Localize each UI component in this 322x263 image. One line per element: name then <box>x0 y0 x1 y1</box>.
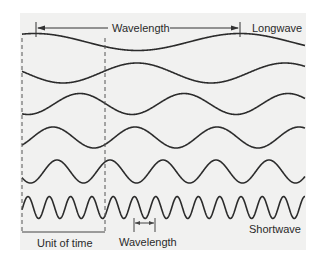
wave-row-5 <box>22 160 305 183</box>
bottom-wavelength-arrow <box>134 218 155 232</box>
wave-row-4 <box>22 127 305 148</box>
top-wavelength-label: Wavelength <box>112 22 170 34</box>
bottom-wavelength-label: Wavelength <box>119 236 177 248</box>
wave-row-3 <box>22 94 305 115</box>
wave-row-6 <box>22 197 305 219</box>
wave-row-1 <box>22 34 305 51</box>
longwave-label: Longwave <box>252 22 302 34</box>
shortwave-label: Shortwave <box>249 223 301 235</box>
wave-group <box>22 34 305 219</box>
wave-row-2 <box>22 63 305 83</box>
unit-of-time-label: Unit of time <box>37 237 93 249</box>
